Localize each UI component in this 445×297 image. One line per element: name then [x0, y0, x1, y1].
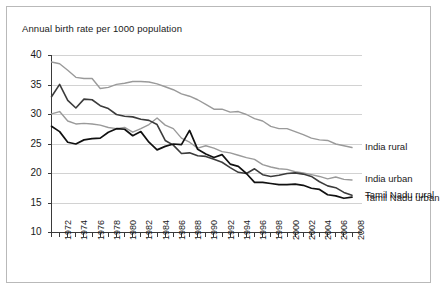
series-label-0: India rural	[365, 141, 407, 152]
x-axis-tick-label: 1998	[274, 219, 284, 239]
y-axis-tick-label: 10	[20, 226, 42, 237]
x-axis-tick-label: 2004	[323, 219, 333, 239]
y-axis-tick-label: 25	[20, 138, 42, 149]
chart-figure: Annual birth rate per 1000 population 10…	[0, 0, 445, 297]
x-axis-tick-label: 1990	[209, 219, 219, 239]
y-axis-tick-label: 15	[20, 197, 42, 208]
x-axis-tick-label: 1972	[63, 219, 73, 239]
x-axis-tick-label: 2002	[307, 219, 317, 239]
x-axis-tick-label: 1982	[144, 219, 154, 239]
x-axis-tick-label: 1994	[242, 219, 252, 239]
x-axis-tick-label: 2008	[356, 219, 366, 239]
x-axis-tick-label: 2000	[291, 219, 301, 239]
x-axis-tick-label: 1978	[112, 219, 122, 239]
series-label-1: India urban	[365, 173, 413, 184]
x-axis-tick-label: 1984	[161, 219, 171, 239]
y-axis-tick-label: 20	[20, 167, 42, 178]
series-line-0	[52, 62, 353, 148]
series-label-3: Tamil Nadu urban	[365, 192, 439, 203]
y-axis-tick-label: 30	[20, 108, 42, 119]
y-axis-tick-label: 35	[20, 79, 42, 90]
series-line-2	[52, 84, 353, 195]
series-line-1	[52, 112, 353, 180]
x-axis-tick-label: 1974	[79, 219, 89, 239]
y-axis-tick-label: 40	[20, 49, 42, 60]
x-axis-tick-label: 1992	[226, 219, 236, 239]
series-line-3	[52, 126, 353, 198]
x-axis-tick-label: 1980	[128, 219, 138, 239]
x-axis-tick-label: 2006	[339, 219, 349, 239]
x-axis-tick-label: 1986	[177, 219, 187, 239]
series-lines	[52, 62, 353, 198]
gridlines	[52, 56, 363, 204]
x-axis-tick-label: 1996	[258, 219, 268, 239]
x-axis-tick-label: 1976	[96, 219, 106, 239]
x-axis-tick-label: 1988	[193, 219, 203, 239]
